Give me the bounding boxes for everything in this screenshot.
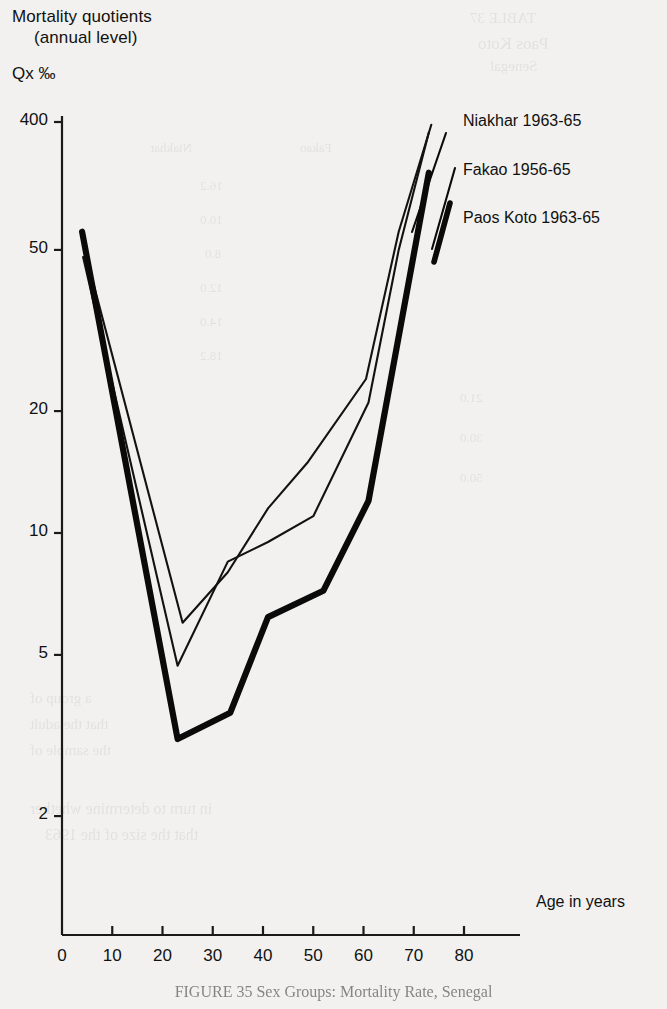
y-tick-label-400: 400 <box>2 110 48 130</box>
x-tick-label-50: 50 <box>296 946 330 966</box>
x-tick-label-60: 60 <box>347 946 381 966</box>
plot-area <box>0 0 667 1009</box>
series-lines <box>82 125 431 739</box>
y-axis-ticks <box>54 122 62 816</box>
x-tick-label-40: 40 <box>246 946 280 966</box>
x-tick-label-20: 20 <box>146 946 180 966</box>
x-axis-ticks <box>112 926 464 935</box>
x-tick-label-30: 30 <box>196 946 230 966</box>
figure-caption: FIGURE 35 Sex Groups: Mortality Rate, Se… <box>0 983 667 1001</box>
y-tick-label-10: 10 <box>2 521 48 541</box>
x-tick-label-10: 10 <box>95 946 129 966</box>
x-tick-label-70: 70 <box>397 946 431 966</box>
series-line-2 <box>82 173 429 739</box>
y-tick-label-2: 2 <box>2 804 48 824</box>
x-tick-label-80: 80 <box>447 946 481 966</box>
mortality-chart: Mortality quotients (annual level) Qx ‰ … <box>0 0 667 1009</box>
series-line-1 <box>83 133 429 666</box>
y-tick-label-20: 20 <box>2 399 48 419</box>
x-tick-label-0: 0 <box>45 946 79 966</box>
y-tick-label-5: 5 <box>2 643 48 663</box>
axis-lines <box>62 116 520 935</box>
y-tick-label-50: 50 <box>2 238 48 258</box>
series-line-0 <box>85 125 432 623</box>
